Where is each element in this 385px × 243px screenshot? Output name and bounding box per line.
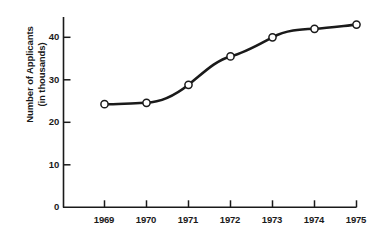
data-line — [105, 25, 357, 105]
data-point-1969 — [101, 101, 108, 108]
data-point-1973 — [269, 34, 276, 41]
plot-area — [0, 0, 385, 243]
axes — [63, 17, 357, 208]
data-point-1970 — [143, 99, 150, 106]
y-axis-ticks — [64, 37, 71, 165]
data-point-1975 — [353, 21, 360, 28]
data-point-1974 — [311, 25, 318, 32]
data-markers — [101, 21, 360, 108]
data-point-1971 — [185, 81, 192, 88]
x-axis-ticks — [105, 200, 357, 207]
chart-figure: Number of Applicants(in thousands) 40 30… — [0, 0, 385, 243]
data-point-1972 — [227, 53, 234, 60]
